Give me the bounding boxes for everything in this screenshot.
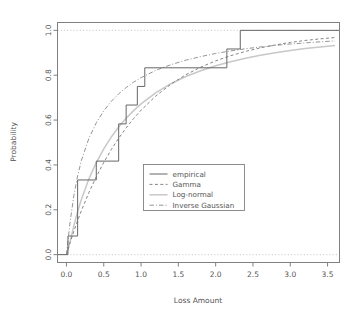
y-tick-label: 0.6 (44, 114, 53, 126)
x-tick-label: 2.0 (210, 270, 222, 279)
y-tick-label: 1.0 (44, 24, 53, 36)
legend-label: Inverse Gaussian (173, 201, 235, 210)
y-tick-label: 0.0 (44, 248, 53, 260)
y-axis-title: Probability (9, 122, 18, 162)
y-tick-label: 0.4 (44, 159, 53, 171)
chart-root: 0.00.51.01.52.02.53.03.5 0.00.20.40.60.8… (0, 0, 354, 319)
x-tick-label: 1.0 (135, 270, 147, 279)
legend-label: Log-normal (173, 190, 214, 199)
x-axis-title: Loss Amount (174, 296, 222, 305)
legend-label: empirical (173, 170, 206, 179)
x-tick-label: 1.5 (172, 270, 184, 279)
legend-label: Gamma (173, 180, 201, 189)
y-tick-label: 0.8 (44, 69, 53, 81)
x-tick-label: 0.5 (98, 270, 110, 279)
y-tick-label: 0.2 (44, 204, 53, 216)
x-tick-label: 3.0 (284, 270, 296, 279)
cdf-comparison-chart: 0.00.51.01.52.02.53.03.5 0.00.20.40.60.8… (0, 0, 354, 319)
x-tick-label: 2.5 (247, 270, 259, 279)
x-tick-label: 0.0 (60, 270, 72, 279)
x-tick-label: 3.5 (322, 270, 334, 279)
chart-legend: empiricalGammaLog-normalInverse Gaussian (144, 165, 245, 211)
